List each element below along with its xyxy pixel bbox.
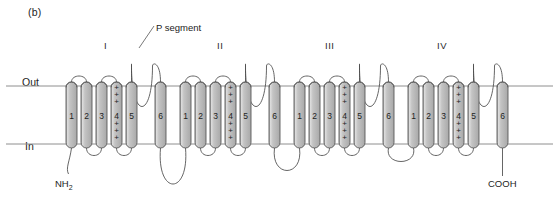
charge-plus-mark: + [456,97,461,106]
segment-4-domain-3: 4++++++ [339,82,350,148]
intracellular-turn [87,148,102,156]
segment-number: 6 [386,111,391,121]
charge-plus-mark: + [228,133,233,142]
segment-number: 1 [69,111,74,121]
charge-plus-mark: + [114,97,119,106]
segment-2-domain-4: 2 [423,82,434,148]
intracellular-turn [345,148,360,156]
charge-plus-mark: + [456,133,461,142]
intracellular-turn [429,148,444,156]
segment-number: 6 [158,111,163,121]
segment-number: 6 [272,111,277,121]
segment-1-domain-1: 1 [66,82,77,148]
segment-2-domain-3: 2 [309,82,320,148]
charge-plus-mark: + [342,97,347,106]
intracellular-turn [201,148,216,156]
segment-number: 1 [297,111,302,121]
segment-5-domain-1: 5 [126,82,137,148]
segment-1-domain-2: 1 [180,82,191,148]
segment-3-domain-2: 3 [210,82,221,148]
segment-number: 3 [99,111,104,121]
segment-4-domain-4: 4++++++ [453,82,464,148]
intracellular-turn [459,148,474,156]
segment-2-domain-1: 2 [81,82,92,148]
segment-1-domain-3: 1 [294,82,305,148]
extracellular-turn [72,76,87,82]
segment-number: 1 [183,111,188,121]
extracellular-turn [414,76,429,82]
segment-6-domain-3: 6 [383,82,394,148]
segment-number: 5 [357,111,362,121]
channel-topology-svg: 1234++++++561234++++++561234++++++561234… [0,0,559,209]
segment-number: 3 [441,111,446,121]
segment-2-domain-2: 2 [195,82,206,148]
segment-3-domain-3: 3 [324,82,335,148]
segment-number: 3 [213,111,218,121]
extracellular-turn [102,76,117,82]
segment-number: 2 [312,111,317,121]
segment-5-domain-3: 5 [354,82,365,148]
charge-plus-mark: + [342,133,347,142]
segment-number: 2 [84,111,89,121]
p-segment-leader-line [139,26,154,48]
charge-plus-mark: + [114,133,119,142]
segment-5-domain-2: 5 [240,82,251,148]
segment-4-domain-2: 4++++++ [225,82,236,148]
segment-6-domain-4: 6 [497,82,508,148]
extracellular-turn [444,76,459,82]
segment-4-domain-1: 4++++++ [111,82,122,148]
charge-plus-mark: + [228,97,233,106]
segment-1-domain-4: 1 [408,82,419,148]
n-terminus-tail [67,148,71,174]
extracellular-turn [216,76,231,82]
segment-number: 5 [471,111,476,121]
segment-number: 6 [500,111,505,121]
segment-number: 2 [198,111,203,121]
segment-number: 2 [426,111,431,121]
extracellular-turn [186,76,201,82]
segment-6-domain-2: 6 [269,82,280,148]
transmembrane-segments: 1234++++++561234++++++561234++++++561234… [66,82,508,148]
segment-number: 5 [243,111,248,121]
interdomain-linker [274,148,300,171]
intracellular-turn [117,148,132,156]
segment-6-domain-1: 6 [155,82,166,148]
intracellular-turn [231,148,246,156]
segment-number: 1 [411,111,416,121]
extracellular-turn [330,76,345,82]
segment-3-domain-4: 3 [438,82,449,148]
callout-leaders [139,26,154,48]
interdomain-linker [388,148,414,162]
intracellular-turn [315,148,330,156]
figure-canvas: (b) Out In P segment I II III IV NH2 COO… [0,0,559,209]
interdomain-linker [160,148,186,184]
segment-number: 5 [129,111,134,121]
extracellular-turn [300,76,315,82]
segment-3-domain-1: 3 [96,82,107,148]
segment-5-domain-4: 5 [468,82,479,148]
segment-number: 3 [327,111,332,121]
